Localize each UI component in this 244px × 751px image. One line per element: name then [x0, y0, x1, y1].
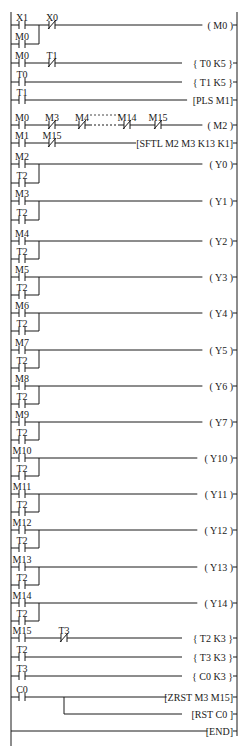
output-coil: ( Y12 ) — [204, 525, 233, 537]
no-contact-m2: M2 — [15, 151, 29, 168]
rung-9: ( Y2 )M4T2 — [11, 228, 237, 263]
svg-text:M15: M15 — [43, 130, 62, 141]
rung-19: ( Y14 )M14T2 — [11, 590, 237, 625]
rung-21: { T3 K3 }T2 — [11, 644, 237, 663]
svg-text:X1: X1 — [16, 12, 28, 23]
svg-text:X0: X0 — [46, 12, 58, 23]
output-coil: ( M2 ) — [207, 120, 233, 132]
output-coil: { T0 K5 } — [193, 58, 233, 69]
output-coil: ( Y0 ) — [209, 159, 233, 171]
no-contact-m10: M10 — [13, 445, 32, 462]
svg-text:M11: M11 — [13, 481, 32, 492]
output-coil: { T3 K3 } — [193, 652, 233, 663]
nc-contact-m15: M15 — [149, 112, 168, 129]
svg-text:M4: M4 — [15, 228, 29, 239]
no-contact-m15: M15 — [13, 625, 32, 642]
rung-15: ( Y10 )M10T2 — [11, 445, 237, 480]
output-coil: ( Y7 ) — [209, 417, 233, 429]
nc-contact-m3: M3 — [45, 112, 59, 129]
no-contact-t2: T2 — [16, 608, 27, 625]
ladder-diagram: ( M0 )X1X0M0{ T0 K5 }M0T1{ T1 K5 }T0[PLS… — [0, 0, 244, 751]
svg-text:M13: M13 — [13, 554, 32, 565]
rung-11: ( Y4 )M6T2 — [11, 300, 237, 335]
no-contact-t2: T2 — [16, 535, 27, 552]
output-coil: ( Y13 ) — [204, 562, 233, 574]
output-instruction: [PLS M1] — [193, 95, 233, 106]
svg-text:T2: T2 — [16, 499, 27, 510]
no-contact-m11: M11 — [13, 481, 32, 498]
rung-3: { T1 K5 }T0 — [11, 69, 237, 88]
svg-text:T0: T0 — [16, 69, 27, 80]
no-contact-t2: T2 — [16, 318, 27, 335]
svg-text:M5: M5 — [15, 264, 29, 275]
rung-6: [SFTL M2 M3 K13 K1]M1M15 — [11, 130, 237, 149]
no-contact-m13: M13 — [13, 554, 32, 571]
no-contact-m1: M1 — [15, 130, 29, 147]
svg-text:M3: M3 — [45, 112, 59, 123]
svg-text:M2: M2 — [15, 151, 29, 162]
rung-18: ( Y13 )M13T2 — [11, 554, 237, 589]
svg-text:T2: T2 — [16, 572, 27, 583]
svg-text:T3: T3 — [58, 625, 69, 636]
svg-text:M14: M14 — [13, 590, 32, 601]
output-coil: ( M0 ) — [207, 20, 233, 32]
nc-contact-t3: T3 — [58, 625, 69, 642]
nc-contact-m15: M15 — [43, 130, 62, 147]
svg-text:T2: T2 — [16, 391, 27, 402]
nc-contact-m4: M4 — [75, 112, 89, 129]
no-contact-c0: C0 — [16, 684, 28, 701]
svg-text:T2: T2 — [16, 246, 27, 257]
no-contact-m0: M0 — [15, 31, 29, 48]
no-contact-m7: M7 — [15, 337, 29, 354]
no-contact-t2: T2 — [16, 644, 27, 661]
svg-text:M14: M14 — [118, 112, 137, 123]
no-contact-m6: M6 — [15, 300, 29, 317]
output-coil: { T2 K3 } — [193, 633, 233, 644]
output-instruction: [ZRST M3 M15] — [164, 692, 233, 703]
output-coil: ( Y6 ) — [209, 381, 233, 393]
rung-1: ( M0 )X1X0M0 — [11, 12, 237, 48]
nc-contact-m14: M14 — [118, 112, 137, 129]
svg-text:T2: T2 — [16, 644, 27, 655]
no-contact-m4: M4 — [15, 228, 29, 245]
no-contact-t0: T0 — [16, 69, 27, 86]
svg-text:T3: T3 — [16, 663, 27, 674]
rung-24: [END] — [11, 726, 237, 737]
svg-text:M8: M8 — [15, 373, 29, 384]
svg-text:M9: M9 — [15, 409, 29, 420]
output-coil: ( Y14 ) — [204, 598, 233, 610]
no-contact-m12: M12 — [13, 517, 32, 534]
rung-16: ( Y11 )M11T2 — [11, 481, 237, 516]
svg-text:M0: M0 — [15, 50, 29, 61]
no-contact-t2: T2 — [16, 282, 27, 299]
svg-text:M15: M15 — [13, 625, 32, 636]
svg-text:M7: M7 — [15, 337, 29, 348]
rung-10: ( Y3 )M5T2 — [11, 264, 237, 299]
output-instruction: [RST C0 ] — [192, 709, 234, 720]
rung-7: ( Y0 )M2T2 — [11, 151, 237, 187]
output-instruction: [SFTL M2 M3 K13 K1] — [136, 138, 233, 149]
no-contact-t2: T2 — [16, 391, 27, 408]
output-coil: ( Y1 ) — [209, 196, 233, 208]
nc-contact-t1: T1 — [46, 50, 57, 67]
no-contact-t2: T2 — [16, 246, 27, 263]
no-contact-m9: M9 — [15, 409, 29, 426]
svg-text:T2: T2 — [16, 535, 27, 546]
output-coil: { T1 K5 } — [193, 77, 233, 88]
svg-text:T2: T2 — [16, 427, 27, 438]
no-contact-m14: M14 — [13, 590, 32, 607]
output-coil: ( Y5 ) — [209, 345, 233, 357]
svg-text:T2: T2 — [16, 463, 27, 474]
no-contact-t2: T2 — [16, 499, 27, 516]
svg-text:T2: T2 — [16, 355, 27, 366]
output-coil: ( Y3 ) — [209, 272, 233, 284]
rung-17: ( Y12 )M12T2 — [11, 517, 237, 552]
output-coil: ( Y11 ) — [205, 489, 233, 501]
nc-contact-x0: X0 — [46, 12, 58, 29]
svg-text:T1: T1 — [46, 50, 57, 61]
no-contact-t2: T2 — [16, 207, 27, 224]
no-contact-m3: M3 — [15, 188, 29, 205]
no-contact-t1: T1 — [16, 87, 27, 104]
svg-text:M12: M12 — [13, 517, 32, 528]
svg-text:C0: C0 — [16, 684, 28, 695]
